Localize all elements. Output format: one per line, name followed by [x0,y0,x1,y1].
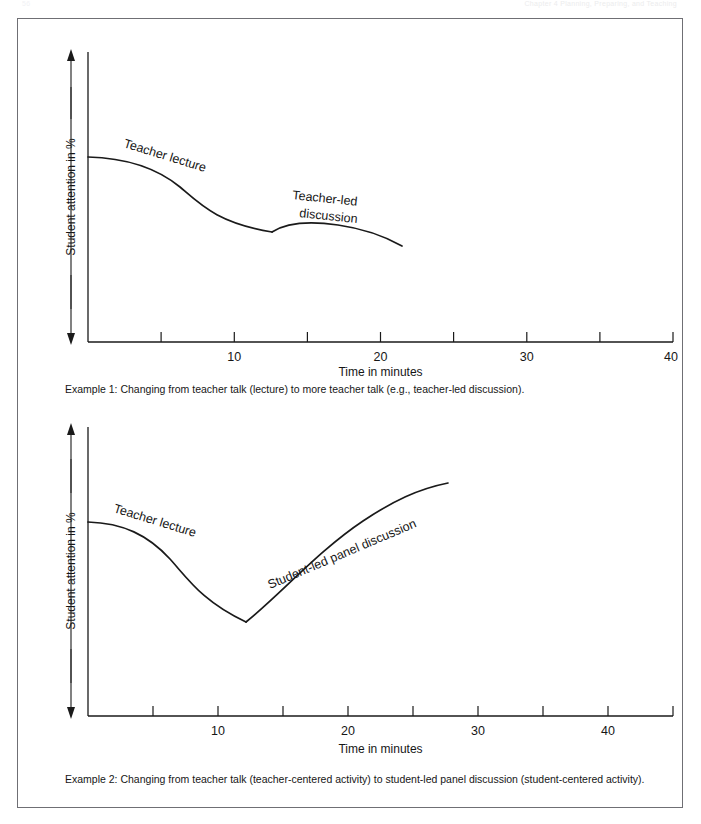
chart-2-xtick-10: 10 [211,724,225,738]
chart-1-annotation-teacher-lecture: Teacher lecture [122,136,208,174]
chart-2-series-teacher-lecture [88,522,246,622]
chart-2-xtick-20: 20 [341,724,355,738]
chart-2-xlabel: Time in minutes [338,742,422,756]
caption-example-2: Example 2: Changing from teacher talk (t… [65,772,665,787]
caption-example-1: Example 1: Changing from teacher talk (l… [65,382,665,397]
chart-2-xtick-30: 30 [471,724,485,738]
chart-1-axes [88,52,673,342]
chart-1-xtick-40: 40 [664,350,678,364]
chart-2-y-axis-title: Student attention in % [64,459,78,683]
chart-example-1: Student attention in % 10 20 30 40 [18,27,682,377]
page-number: 56 [22,0,30,7]
chart-1-xtick-20: 20 [374,350,388,364]
chart-1-xtick-30: 30 [520,350,534,364]
figure-frame: Student attention in % 10 20 30 40 [17,18,683,808]
chart-1-xlabel: Time in minutes [338,365,422,377]
chart-2-annotation-teacher-lecture: Teacher lecture [112,501,198,539]
chart-2-svg: Student attention in % 10 20 30 [18,409,682,759]
chart-1-series-teacher-lecture [88,157,272,232]
chart-1-svg: Student attention in % 10 20 30 40 [18,27,682,377]
chart-1-ylabel: Student attention in % [64,138,78,256]
chart-1-series-teacher-led-discussion [272,223,402,246]
chart-2-ylabel: Student attention in % [64,512,78,630]
page-header: 56 Chapter 4 Planning, Preparing, and Te… [0,0,701,14]
chart-2-annotation-student-led-panel-discussion: Student-led panel discussion [266,516,419,591]
chart-2-xtick-40: 40 [601,724,615,738]
chart-2-axes [88,427,673,716]
chart-1-xtick-10: 10 [227,350,241,364]
running-head-title: Chapter 4 Planning, Preparing, and Teach… [525,0,677,7]
chart-example-2: Student attention in % 10 20 30 [18,409,682,759]
